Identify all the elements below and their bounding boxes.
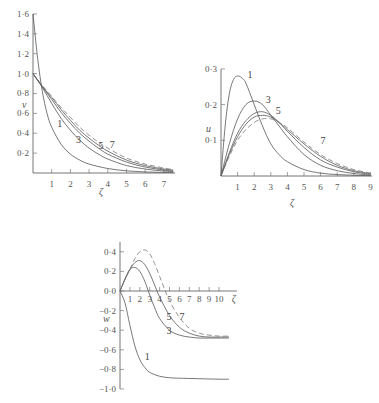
x-tick-label: 4 — [285, 182, 290, 192]
curve-label: 1 — [57, 118, 62, 129]
x-tick-label: 4 — [157, 294, 162, 304]
y-axis-label: u — [206, 123, 211, 134]
u-chart: 1234567890·10·20·3uζ1357 — [205, 64, 373, 209]
x-tick-label: 5 — [124, 179, 129, 189]
curve-label: 5 — [276, 105, 281, 116]
x-tick-label: 8 — [352, 182, 357, 192]
x-tick-label: 1 — [235, 182, 240, 192]
w-chart: 123456789100·40·20·0−0·2−0·4−0·6−0·8−1·0… — [99, 242, 237, 394]
x-tick-label: 4 — [106, 179, 111, 189]
y-tick-label: 0·2 — [104, 266, 116, 276]
curve-7 — [120, 250, 229, 336]
y-tick-label: 1·0 — [17, 69, 29, 79]
y-tick-label: 0·8 — [17, 88, 29, 98]
curve-5 — [120, 261, 229, 338]
x-axis-label: ζ — [232, 293, 237, 305]
x-tick-label: 6 — [177, 294, 182, 304]
x-tick-label: 8 — [197, 294, 202, 304]
curve-5 — [33, 74, 173, 171]
x-tick-label: 6 — [318, 182, 323, 192]
y-tick-label: 0·2 — [205, 100, 217, 110]
curve-7 — [33, 74, 173, 170]
y-tick-label: 0·4 — [17, 128, 29, 138]
y-tick-label: 0·1 — [205, 135, 217, 145]
y-tick-label: 0·0 — [104, 286, 116, 296]
x-tick-label: 6 — [143, 179, 148, 189]
x-tick-label: 3 — [87, 179, 92, 189]
x-axis-label: ζ — [99, 186, 104, 198]
curve-label: 7 — [110, 139, 115, 150]
v-chart: 12345670·20·40·60·81·01·21·41·6vζ1357 — [17, 9, 175, 198]
x-tick-label: 2 — [68, 179, 73, 189]
x-tick-label: 2 — [252, 182, 257, 192]
curve-label: 7 — [321, 135, 326, 146]
figure-canvas: 12345670·20·40·60·81·01·21·41·6vζ1357 12… — [0, 0, 379, 403]
y-tick-label: −0·4 — [99, 325, 117, 335]
x-axis-label: ζ — [290, 197, 295, 209]
y-tick-label: 0·3 — [205, 64, 217, 74]
curve-label: 1 — [248, 69, 253, 80]
curve-1 — [221, 76, 370, 176]
x-tick-label: 1 — [49, 179, 54, 189]
y-tick-label: 1·6 — [17, 9, 29, 19]
x-tick-label: 7 — [187, 294, 192, 304]
y-tick-label: 0·4 — [104, 247, 116, 257]
x-tick-label: 5 — [167, 294, 172, 304]
x-tick-label: 1 — [128, 294, 133, 304]
y-tick-label: 1·4 — [17, 29, 29, 39]
curve-1 — [120, 291, 229, 379]
x-tick-label: 7 — [335, 182, 340, 192]
curve-label: 1 — [145, 351, 150, 362]
x-tick-label: 2 — [138, 294, 143, 304]
x-tick-label: 5 — [302, 182, 307, 192]
curve-label: 3 — [76, 134, 81, 145]
y-axis-label: v — [22, 99, 27, 110]
y-tick-label: 0·2 — [17, 148, 29, 158]
curve-label: 3 — [167, 325, 172, 336]
curve-label: 3 — [266, 94, 271, 105]
x-tick-label: 9 — [368, 182, 373, 192]
x-tick-label: 9 — [207, 294, 212, 304]
curve-3 — [33, 74, 173, 172]
x-tick-label: 7 — [162, 179, 167, 189]
y-tick-label: −0·8 — [99, 364, 117, 374]
x-tick-label: 10 — [215, 294, 225, 304]
x-tick-label: 3 — [269, 182, 274, 192]
y-tick-label: 1·2 — [17, 49, 29, 59]
curve-dashed — [33, 74, 173, 170]
curve-label: 7 — [179, 311, 184, 322]
curve-3 — [221, 101, 370, 176]
y-tick-label: −1·0 — [99, 384, 117, 394]
y-tick-label: −0·6 — [99, 345, 117, 355]
curve-label: 5 — [167, 311, 172, 322]
y-axis-label: w — [103, 313, 110, 324]
curve-label: 5 — [98, 140, 103, 151]
curve-3 — [120, 267, 229, 338]
